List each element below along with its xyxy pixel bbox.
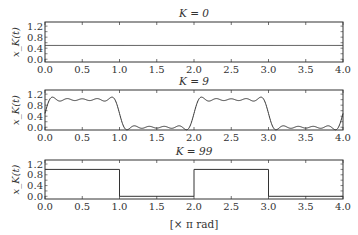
x-tick-label: 1.0 xyxy=(112,132,128,143)
y-tick-label: 0.0 xyxy=(27,122,43,133)
y-tick-label: 0.4 xyxy=(27,111,43,122)
y-axis-label: x_K(t) xyxy=(10,164,22,194)
y-tick-label: 0.0 xyxy=(27,54,43,65)
y-tick-label: 0.4 xyxy=(27,43,43,54)
x-tick-label: 1.5 xyxy=(149,201,165,212)
x-tick-label: 0.0 xyxy=(37,201,53,212)
x-tick-label: 1.5 xyxy=(149,132,165,143)
x-tick-label: 1.5 xyxy=(149,64,165,75)
x-tick-label: 3.0 xyxy=(261,64,277,75)
panel-title: K = 9 xyxy=(178,75,209,87)
x-tick-label: 4.0 xyxy=(335,201,351,212)
y-tick-label: 0.8 xyxy=(27,169,43,180)
x-tick-label: 0.5 xyxy=(74,64,90,75)
x-tick-label: 3.5 xyxy=(298,201,314,212)
y-tick-label: 0.8 xyxy=(27,100,43,111)
panel-k-9: K = 9x_K(t)0.00.51.01.52.02.53.03.54.00.… xyxy=(10,75,351,143)
y-axis-label: x_K(t) xyxy=(10,27,22,57)
x-tick-label: 2.5 xyxy=(223,64,239,75)
y-tick-label: 1.2 xyxy=(27,159,43,170)
y-tick-label: 1.2 xyxy=(27,21,43,32)
signal-line xyxy=(45,169,343,196)
panel-k-99: K = 99x_K(t)0.00.51.01.52.02.53.03.54.00… xyxy=(10,145,351,212)
y-tick-label: 0.0 xyxy=(27,191,43,202)
axes-frame xyxy=(45,22,343,62)
y-tick-label: 0.4 xyxy=(27,180,43,191)
x-tick-label: 2.0 xyxy=(186,64,202,75)
x-tick-label: 4.0 xyxy=(335,132,351,143)
x-tick-label: 2.5 xyxy=(223,201,239,212)
fourier-square-wave-chart: K = 0x_K(t)0.00.51.01.52.02.53.03.54.00.… xyxy=(0,0,358,235)
x-tick-label: 3.0 xyxy=(261,201,277,212)
x-tick-label: 4.0 xyxy=(335,64,351,75)
axes-frame xyxy=(45,90,343,130)
x-tick-label: 2.0 xyxy=(186,201,202,212)
x-tick-label: 3.5 xyxy=(298,132,314,143)
x-tick-label: 0.0 xyxy=(37,64,53,75)
y-tick-label: 0.8 xyxy=(27,32,43,43)
x-tick-label: 0.5 xyxy=(74,132,90,143)
panel-title: K = 0 xyxy=(178,7,209,19)
x-tick-label: 0.0 xyxy=(37,132,53,143)
x-tick-label: 0.5 xyxy=(74,201,90,212)
x-tick-label: 3.5 xyxy=(298,64,314,75)
x-tick-label: 2.0 xyxy=(186,132,202,143)
panel-title: K = 99 xyxy=(175,145,213,157)
y-axis-label: x_K(t) xyxy=(10,95,22,125)
x-tick-label: 1.0 xyxy=(112,64,128,75)
panel-k-0: K = 0x_K(t)0.00.51.01.52.02.53.03.54.00.… xyxy=(10,7,351,75)
x-tick-label: 3.0 xyxy=(261,132,277,143)
signal-line xyxy=(45,97,343,130)
y-tick-label: 1.2 xyxy=(27,89,43,100)
x-tick-label: 2.5 xyxy=(223,132,239,143)
x-tick-label: 1.0 xyxy=(112,201,128,212)
x-axis-label: [× π rad] xyxy=(170,218,219,230)
